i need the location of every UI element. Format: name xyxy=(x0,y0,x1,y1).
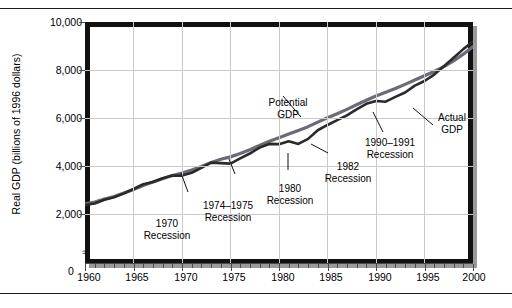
x-tick-1985 xyxy=(328,264,329,271)
x-tick-label-1970: 1970 xyxy=(174,272,197,283)
x-tick-1989 xyxy=(366,264,367,268)
y-tick-label-2000: 2,000 xyxy=(4,209,82,220)
annotation-1970-recession-line2: Recession xyxy=(144,230,191,242)
y-tick-label-10000: 10,000 xyxy=(4,17,82,28)
x-tick-1960 xyxy=(85,264,86,271)
x-tick-1992 xyxy=(395,264,396,268)
annotation-1970-recession-line1: 1970 xyxy=(144,218,191,230)
x-tick-1962 xyxy=(104,264,105,268)
annotation-1982-recession-line2: Recession xyxy=(325,173,372,185)
annotation-actual-gdp-line2: GDP xyxy=(438,124,466,136)
x-tick-1991 xyxy=(386,264,387,268)
x-tick-1974 xyxy=(221,264,222,268)
x-tick-1993 xyxy=(405,264,406,268)
x-tick-label-1965: 1965 xyxy=(125,272,148,283)
x-tick-1964 xyxy=(124,264,125,268)
annotation-1970-recession: 1970 Recession xyxy=(144,218,191,241)
annotation-potential-gdp-line1: Potential xyxy=(269,97,308,109)
x-tick-1969 xyxy=(172,264,173,268)
x-tick-1988 xyxy=(357,264,358,268)
y-tick-label-6000: 6,000 xyxy=(4,113,82,124)
x-tick-1982 xyxy=(298,264,299,268)
x-tick-1972 xyxy=(201,264,202,268)
x-tick-1977 xyxy=(250,264,251,268)
x-tick-1999 xyxy=(463,264,464,268)
annotation-1980-recession: 1980 Recession xyxy=(267,183,314,206)
x-tick-1997 xyxy=(444,264,445,268)
annotation-1980-recession-line2: Recession xyxy=(267,195,314,207)
x-tick-1971 xyxy=(192,264,193,268)
x-tick-label-2000: 2000 xyxy=(462,272,485,283)
y-tick-label-4000: 4,000 xyxy=(4,161,82,172)
annotation-1990-1991-recession: 1990–1991 Recession xyxy=(365,137,415,160)
annotation-1974-1975-recession-line2: Recession xyxy=(203,212,253,224)
annotation-1990-1991-recession-line1: 1990–1991 xyxy=(365,137,415,149)
annotation-1982-recession: 1982 Recession xyxy=(325,161,372,184)
x-tick-1986 xyxy=(337,264,338,268)
x-tick-1973 xyxy=(211,264,212,268)
y-axis-title: Real GDP (billions of 1996 dollars) xyxy=(10,34,22,234)
y-tick-label-zero: 0 xyxy=(68,265,74,277)
annotation-1982-recession-line1: 1982 xyxy=(325,161,372,173)
annotation-potential-gdp-line2: GDP xyxy=(269,109,308,121)
annotation-actual-gdp-line1: Actual xyxy=(438,112,466,124)
x-tick-label-1960: 1960 xyxy=(77,272,100,283)
x-tick-1995 xyxy=(425,264,426,271)
y-axis-labels-group: Real GDP (billions of 1996 dollars) 10,0… xyxy=(0,0,82,308)
annotation-potential-gdp: Potential GDP xyxy=(269,97,308,120)
x-tick-1983 xyxy=(308,264,309,268)
x-tick-label-1985: 1985 xyxy=(319,272,342,283)
x-tick-1967 xyxy=(153,264,154,268)
x-tick-1965 xyxy=(134,264,135,271)
x-tick-label-1980: 1980 xyxy=(271,272,294,283)
x-tick-label-1990: 1990 xyxy=(368,272,391,283)
annotation-actual-gdp: Actual GDP xyxy=(438,112,466,135)
x-tick-1966 xyxy=(143,264,144,268)
x-tick-1996 xyxy=(434,264,435,268)
x-tick-1994 xyxy=(415,264,416,268)
x-tick-1998 xyxy=(454,264,455,268)
annotation-1974-1975-recession: 1974–1975 Recession xyxy=(203,200,253,223)
leader-1990-1991-recession xyxy=(373,112,383,132)
x-tick-1990 xyxy=(376,264,377,271)
x-tick-1981 xyxy=(289,264,290,268)
x-tick-1987 xyxy=(347,264,348,268)
x-tick-1968 xyxy=(163,264,164,268)
x-tick-label-1975: 1975 xyxy=(222,272,245,283)
x-tick-1978 xyxy=(260,264,261,268)
leader-1970-recession xyxy=(181,173,188,192)
y-tick-label-8000: 8,000 xyxy=(4,65,82,76)
x-tick-1961 xyxy=(95,264,96,268)
leader-1974-1975-recession xyxy=(229,159,235,174)
leader-1982-recession xyxy=(311,144,328,153)
x-tick-1975 xyxy=(231,264,232,271)
x-tick-2000 xyxy=(473,264,474,271)
x-tick-1970 xyxy=(182,264,183,271)
x-tick-1963 xyxy=(114,264,115,268)
x-tick-1979 xyxy=(269,264,270,268)
leader-actual-gdp xyxy=(413,108,433,125)
annotation-1980-recession-line1: 1980 xyxy=(267,183,314,195)
x-tick-1980 xyxy=(279,264,280,271)
x-tick-label-1995: 1995 xyxy=(416,272,439,283)
x-tick-1984 xyxy=(318,264,319,268)
annotation-1990-1991-recession-line2: Recession xyxy=(365,149,415,161)
annotation-1974-1975-recession-line1: 1974–1975 xyxy=(203,200,253,212)
x-tick-1976 xyxy=(240,264,241,268)
